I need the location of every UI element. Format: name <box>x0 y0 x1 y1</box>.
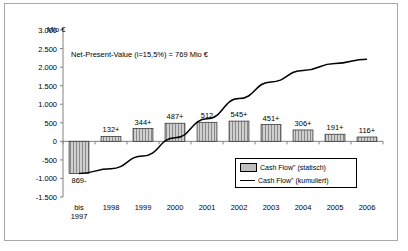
x-tick-label: 2005 <box>319 203 351 212</box>
y-tick-label: 2.000 <box>13 63 57 72</box>
x-tick-label: 2001 <box>191 203 223 212</box>
y-tick-label: 1.000 <box>13 100 57 109</box>
x-tick-label: 2000 <box>159 203 191 212</box>
bar-value-label: 116+ <box>359 126 375 135</box>
bar-value-label: 487+ <box>167 112 184 121</box>
bar-value-label: 512 <box>201 111 214 120</box>
x-tick-label: 1999 <box>127 203 159 212</box>
x-tick-label: bis1997 <box>63 203 95 221</box>
y-tick-label: 1.500 <box>13 81 57 90</box>
y-tick-label: -500 <box>13 155 57 164</box>
bar-value-label: 306+ <box>295 119 312 128</box>
bar-value-label: 344+ <box>135 118 152 127</box>
y-tick-label: 2.500 <box>13 44 57 53</box>
chart-frame: Mio € Net-Present-Value (i=15,5%) = 769 … <box>4 3 398 241</box>
legend-label-bar: Cash Flow" (statisch) <box>260 164 326 171</box>
legend-line-swatch-icon <box>240 180 255 181</box>
chart-canvas: Mio € Net-Present-Value (i=15,5%) = 769 … <box>13 12 391 234</box>
bar-value-label: 545+ <box>231 110 248 119</box>
bar-value-label: 191+ <box>327 123 344 132</box>
bar-value-label: 451+ <box>263 114 280 123</box>
legend-item-line: Cash Flow" (kumuliert) <box>240 174 354 186</box>
y-tick-label: 500 <box>13 118 57 127</box>
y-tick-label: 3.000 <box>13 26 57 35</box>
bar-value-label: 132+ <box>103 125 120 134</box>
x-tick-label: 2004 <box>287 203 319 212</box>
npv-annotation: Net-Present-Value (i=15,5%) = 769 Mio € <box>71 50 208 59</box>
x-tick-label: 1998 <box>95 203 127 212</box>
y-tick-label: -1.000 <box>13 174 57 183</box>
legend-bar-swatch-icon <box>240 163 257 172</box>
x-tick-label: 2006 <box>351 203 383 212</box>
x-tick-label: 2003 <box>255 203 287 212</box>
y-tick-label: -1.500 <box>13 193 57 202</box>
legend-item-bar: Cash Flow" (statisch) <box>240 161 354 173</box>
legend-label-line: Cash Flow" (kumuliert) <box>258 177 329 184</box>
y-tick-label: 0 <box>13 137 57 146</box>
bar-value-label: 869- <box>71 176 86 185</box>
chart-legend: Cash Flow" (statisch) Cash Flow" (kumuli… <box>235 158 357 188</box>
x-tick-label: 2002 <box>223 203 255 212</box>
